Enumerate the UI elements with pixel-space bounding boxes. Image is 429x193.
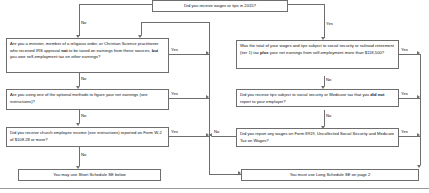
- connector-left-spine-to-long: [209, 174, 241, 175]
- edge-label-church-yes: Yes: [171, 130, 178, 134]
- connector-church-no: [79, 147, 80, 166]
- edge-label-8919-yes: Yes: [401, 130, 408, 134]
- question-optional-methods-text: Are you using one of the optional method…: [10, 92, 148, 103]
- edge-label-wagebase-no: No: [326, 78, 331, 82]
- arrow-right-spine-to-long: [417, 165, 421, 168]
- connector-optional-yes: [169, 98, 209, 99]
- question-church-income-text: Did you receive church employee income (…: [10, 130, 162, 141]
- edge-label-start-yes: Yes: [326, 22, 333, 26]
- result-short-schedule-se-text: You may use Short Schedule SE below: [53, 172, 126, 178]
- edge-label-minister-yes: Yes: [171, 48, 178, 52]
- edge-label-tips-no: No: [326, 114, 331, 118]
- result-short-schedule-se: You may use Short Schedule SE below: [18, 169, 161, 181]
- question-wage-base: Was the total of your wages and tips sub…: [236, 40, 399, 69]
- edge-label-minister-no: No: [81, 77, 86, 81]
- result-long-schedule-se-text: You must use Long Schedule SE on page 2: [290, 172, 371, 178]
- connector-loop-down: [141, 22, 142, 35]
- edge-label-optional-yes: Yes: [171, 92, 178, 96]
- arrow-8919-no-to-spine: [209, 133, 212, 137]
- connector-tips-no: [324, 110, 325, 126]
- edge-label-start-no: No: [81, 21, 86, 25]
- question-optional-methods: Are you using one of the optional method…: [6, 89, 169, 110]
- connector-start-right: [288, 4, 325, 5]
- edge-label-tips-yes: Yes: [401, 92, 408, 96]
- question-minister-text: Are you a minister, member of a religiou…: [10, 41, 158, 59]
- edge-label-wagebase-yes: Yes: [401, 48, 408, 52]
- question-start: Did you receive wages or tips in 2015?: [152, 0, 288, 12]
- schedule-se-flowchart: Did you receive wages or tips in 2015? A…: [0, 0, 429, 193]
- question-unreported-tips-text: Did you receive tips subject to social s…: [240, 92, 384, 103]
- connector-loop-top: [141, 22, 209, 23]
- question-minister: Are you a minister, member of a religiou…: [6, 38, 169, 73]
- edge-label-8919-no: No: [214, 130, 219, 134]
- connector-start-right-down: [324, 4, 325, 38]
- question-unreported-tips: Did you receive tips subject to social s…: [236, 89, 399, 107]
- arrow-optional-to-church: [76, 123, 80, 126]
- question-church-income: Did you receive church employee income (…: [6, 127, 169, 147]
- connector-wagebase-no: [324, 76, 325, 86]
- connector-left-spine: [209, 22, 210, 174]
- connector-right-spine: [420, 54, 421, 165]
- connector-minister-yes: [169, 54, 209, 55]
- result-long-schedule-se: You must use Long Schedule SE on page 2: [241, 169, 419, 181]
- question-wage-base-text: Was the total of your wages and tips sub…: [240, 43, 394, 54]
- connector-start-left: [79, 4, 152, 5]
- connector-minister-no: [79, 73, 80, 86]
- connector-start-left-down: [79, 4, 80, 36]
- question-form-8919-text: Did you report any wages on Form 8919, U…: [240, 131, 394, 142]
- connector-optional-no: [79, 110, 80, 123]
- edge-label-optional-no: No: [81, 114, 86, 118]
- connector-8919-no: [212, 136, 236, 137]
- connector-church-yes: [169, 136, 209, 137]
- bottom-divider: [0, 188, 429, 189]
- question-start-text: Did you receive wages or tips in 2015?: [184, 3, 256, 9]
- question-form-8919: Did you report any wages on Form 8919, U…: [236, 128, 399, 147]
- edge-label-church-no: No: [81, 153, 86, 157]
